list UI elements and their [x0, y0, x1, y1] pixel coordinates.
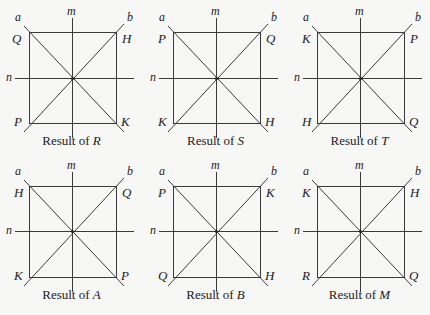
corner-label-bottom-left: Q [158, 269, 167, 282]
transform-name: S [238, 133, 245, 148]
corner-label-top-left: P [158, 186, 166, 199]
panel-caption: Result of M [288, 287, 430, 303]
panel-caption: Result of S [144, 133, 287, 149]
axis-label-m: m [67, 5, 76, 18]
corner-label-bottom-right: Q [409, 115, 418, 128]
axis-label-n: n [150, 71, 156, 84]
axis-label-m: m [211, 5, 220, 18]
transform-name: M [379, 287, 390, 302]
corner-label-top-right: H [410, 186, 419, 199]
corner-label-bottom-left: K [14, 269, 23, 282]
axis-label-a: a [159, 11, 165, 24]
axis-label-n: n [150, 224, 156, 237]
panel-result-s: a m b n P Q K H Result of S [144, 0, 287, 157]
axis-label-n: n [294, 224, 300, 237]
axis-label-m: m [67, 159, 76, 172]
axis-label-n: n [6, 71, 12, 84]
panel-result-a: a m b n H Q K P Result of A [0, 155, 143, 312]
transform-name: A [93, 287, 101, 302]
transform-name: R [93, 133, 101, 148]
axis-label-b: b [127, 165, 133, 178]
corner-label-bottom-right: Q [409, 269, 418, 282]
transform-name: T [381, 133, 388, 148]
corner-label-top-right: Q [122, 186, 131, 199]
corner-label-bottom-left: H [302, 115, 311, 128]
axis-label-n: n [6, 224, 12, 237]
axis-label-m: m [211, 159, 220, 172]
axis-label-b: b [271, 11, 277, 24]
axis-label-a: a [303, 165, 309, 178]
corner-label-bottom-right: H [265, 115, 274, 128]
panel-caption: Result of A [0, 287, 143, 303]
corner-label-bottom-right: P [121, 269, 129, 282]
axis-label-n: n [294, 71, 300, 84]
axis-label-a: a [15, 165, 21, 178]
axis-label-b: b [415, 11, 421, 24]
corner-label-top-left: H [14, 186, 23, 199]
panel-result-m: a m b n K H R Q Result of M [288, 155, 430, 312]
axis-label-b: b [415, 165, 421, 178]
axis-label-b: b [271, 165, 277, 178]
panel-caption: Result of B [144, 287, 287, 303]
axis-label-a: a [159, 165, 165, 178]
corner-label-bottom-left: P [14, 115, 22, 128]
axis-label-a: a [15, 11, 21, 24]
axis-label-m: m [355, 159, 364, 172]
corner-label-top-right: P [410, 32, 418, 45]
axis-label-b: b [127, 11, 133, 24]
axis-label-a: a [303, 11, 309, 24]
corner-label-top-right: H [122, 32, 131, 45]
corner-label-bottom-left: R [302, 269, 310, 282]
panel-result-t: a m b n K P H Q Result of T [288, 0, 430, 157]
panel-result-b: a m b n P K Q H Result of B [144, 155, 287, 312]
transform-name: B [237, 287, 245, 302]
corner-label-top-left: Q [12, 32, 21, 45]
panel-caption: Result of T [288, 133, 430, 149]
corner-label-bottom-right: K [121, 115, 130, 128]
corner-label-top-left: K [302, 186, 311, 199]
corner-label-top-left: K [302, 32, 311, 45]
axis-label-m: m [355, 5, 364, 18]
corner-label-bottom-right: H [265, 269, 274, 282]
corner-label-top-right: Q [266, 32, 275, 45]
corner-label-top-left: P [158, 32, 166, 45]
corner-label-bottom-left: K [158, 115, 167, 128]
panel-caption: Result of R [0, 133, 143, 149]
panel-result-r: a m b n Q H P K Result of R [0, 0, 143, 157]
corner-label-top-right: K [266, 186, 275, 199]
